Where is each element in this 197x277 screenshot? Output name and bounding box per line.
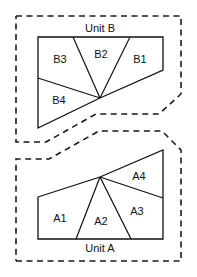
diagram-root: Unit B B3 B2 B1 B4 Unit A A1 A2 A3 A4 [0,0,197,277]
unit-b-title: Unit B [85,22,115,34]
unit-a-title: Unit A [85,242,115,254]
region-label-b4: B4 [52,94,65,106]
region-label-b2: B2 [94,48,107,60]
region-label-a1: A1 [53,212,66,224]
region-label-a2: A2 [94,215,107,227]
region-label-a3: A3 [130,205,143,217]
unit-a-group: Unit A A1 A2 A3 A4 [16,131,181,261]
unit-subdivision-diagram: Unit B B3 B2 B1 B4 Unit A A1 A2 A3 A4 [0,0,197,277]
region-label-b3: B3 [53,53,66,65]
region-label-b1: B1 [133,53,146,65]
region-label-a4: A4 [132,170,145,182]
unit-b-group: Unit B B3 B2 B1 B4 [16,16,181,142]
